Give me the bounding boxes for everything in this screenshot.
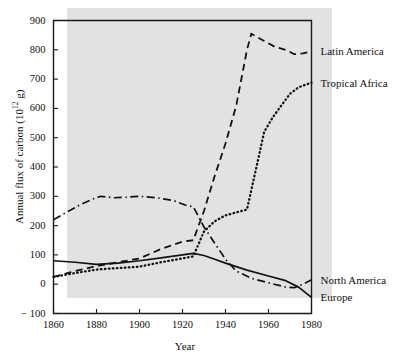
y-tick-label: 900 xyxy=(0,16,46,27)
x-tick-label: 1920 xyxy=(163,320,203,331)
x-tick-label: 1900 xyxy=(120,320,160,331)
y-axis-title-suffix: g) xyxy=(13,90,25,102)
y-axis-title-prefix: Annual flux of carbon (10 xyxy=(13,109,25,224)
y-tick-label: − 100 xyxy=(0,309,46,320)
x-tick-label: 1960 xyxy=(249,320,289,331)
x-tick-label: 1860 xyxy=(34,320,74,331)
y-tick-label: 800 xyxy=(0,45,46,56)
series-line-north-america xyxy=(54,196,312,287)
y-tick-label: 0 xyxy=(0,279,46,290)
series-label-europe: Europe xyxy=(321,291,353,303)
x-tick-label: 1880 xyxy=(77,320,117,331)
series-label-latin-america: Latin America xyxy=(321,45,384,57)
x-tick-label: 1980 xyxy=(292,320,332,331)
data-series xyxy=(54,34,312,298)
series-label-north-america: North America xyxy=(321,274,387,286)
series-line-tropical-africa xyxy=(54,83,312,277)
figure-container: 9008007006005004003002001000− 100 186018… xyxy=(0,0,404,361)
y-axis-title: Annual flux of carbon (1012 g) xyxy=(11,77,25,237)
y-tick-label: 100 xyxy=(0,250,46,261)
series-label-tropical-africa: Tropical Africa xyxy=(321,77,388,89)
series-line-latin-america xyxy=(54,34,312,277)
series-line-europe xyxy=(54,253,312,297)
x-tick-label: 1940 xyxy=(206,320,246,331)
x-axis-title: Year xyxy=(150,340,220,352)
y-axis-title-exponent: 12 xyxy=(11,102,20,110)
